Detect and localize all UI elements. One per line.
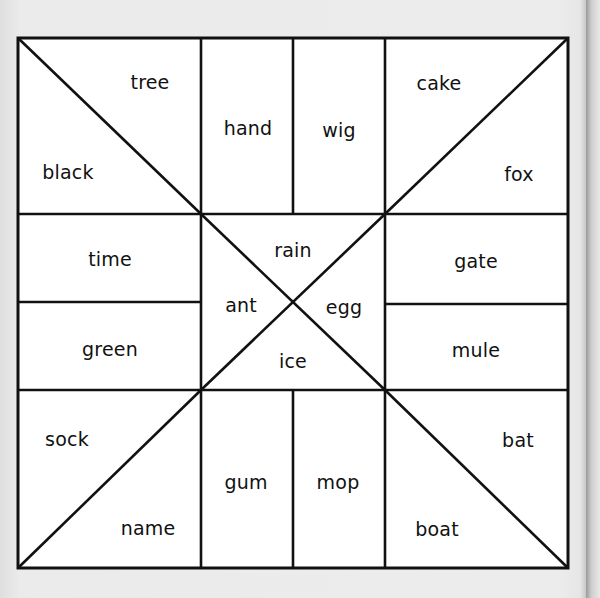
word-mop: mop bbox=[317, 471, 360, 493]
word-name: name bbox=[121, 517, 176, 539]
word-black: black bbox=[42, 161, 93, 183]
word-cake: cake bbox=[417, 72, 462, 94]
word-hand: hand bbox=[224, 117, 273, 139]
word-ant: ant bbox=[225, 294, 257, 316]
puzzle-grid bbox=[0, 0, 600, 598]
word-boat: boat bbox=[415, 518, 459, 540]
word-bat: bat bbox=[502, 429, 534, 451]
word-tree: tree bbox=[130, 71, 169, 93]
word-fox: fox bbox=[504, 163, 534, 185]
word-time: time bbox=[88, 248, 132, 270]
word-green: green bbox=[82, 338, 138, 360]
word-sock: sock bbox=[45, 428, 89, 450]
word-ice: ice bbox=[279, 350, 307, 372]
word-gum: gum bbox=[224, 471, 267, 493]
grid-lines bbox=[18, 38, 568, 568]
word-egg: egg bbox=[326, 296, 362, 318]
word-wig: wig bbox=[322, 119, 355, 141]
word-mule: mule bbox=[452, 339, 500, 361]
word-rain: rain bbox=[274, 239, 312, 261]
word-gate: gate bbox=[454, 250, 498, 272]
